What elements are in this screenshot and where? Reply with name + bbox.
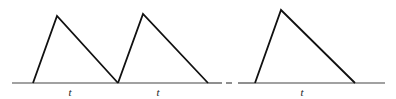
triangular-pulse-3	[255, 10, 355, 83]
interval-label-3: t	[300, 86, 304, 98]
pulse-train-diagram: t t t	[0, 0, 396, 99]
interval-label-2: t	[156, 86, 160, 98]
triangular-pulse-2	[118, 14, 208, 83]
interval-labels: t t t	[68, 86, 304, 98]
triangular-pulse-1	[33, 16, 118, 83]
interval-label-1: t	[68, 86, 72, 98]
triangular-pulses	[33, 10, 355, 83]
